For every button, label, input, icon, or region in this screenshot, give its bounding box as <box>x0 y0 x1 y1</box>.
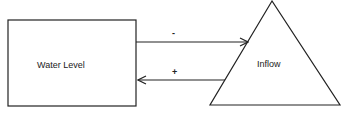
negative-sign: - <box>172 28 175 38</box>
water-level-label: Water Level <box>37 60 85 70</box>
positive-sign: + <box>172 67 177 77</box>
inflow-label: Inflow <box>257 59 281 69</box>
diagram-canvas <box>0 0 351 113</box>
inflow-triangle <box>210 1 340 105</box>
